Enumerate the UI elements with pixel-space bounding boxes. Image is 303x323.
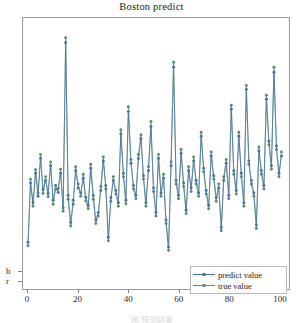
x-tick-label: 20 bbox=[73, 294, 82, 304]
legend-item-predict-value: predict value bbox=[193, 269, 283, 280]
series-canvas bbox=[23, 18, 289, 289]
chart-legend: predict value true value bbox=[190, 266, 287, 294]
legend-marker-predict-icon bbox=[193, 270, 215, 279]
legend-label-predict-value: predict value bbox=[218, 270, 262, 280]
x-tick-mark bbox=[128, 290, 129, 293]
legend-marker-true-icon bbox=[193, 281, 215, 290]
y-tick-label: b bbox=[6, 266, 11, 276]
y-tick-mark bbox=[18, 271, 22, 272]
legend-label-true-value: true value bbox=[218, 281, 252, 291]
chart-figure: Boston predict 020406080100 br predict v… bbox=[0, 0, 303, 323]
x-tick-label: 100 bbox=[273, 294, 287, 304]
plot-area bbox=[22, 17, 290, 290]
y-tick-mark bbox=[18, 281, 22, 282]
figure-caption: 图 预测结果 bbox=[0, 314, 303, 323]
x-tick-label: 80 bbox=[225, 294, 234, 304]
x-tick-mark bbox=[179, 290, 180, 293]
x-tick-mark bbox=[27, 290, 28, 293]
x-tick-label: 0 bbox=[25, 294, 30, 304]
x-tick-label: 60 bbox=[174, 294, 183, 304]
legend-dot-predict bbox=[202, 273, 206, 277]
x-tick-mark bbox=[78, 290, 79, 293]
x-tick-label: 40 bbox=[124, 294, 133, 304]
legend-item-true-value: true value bbox=[193, 280, 283, 291]
y-tick-label: r bbox=[6, 276, 9, 286]
legend-dot-true bbox=[202, 284, 206, 288]
page-title: Boston predict bbox=[0, 1, 303, 12]
series-predict-value bbox=[27, 41, 283, 248]
